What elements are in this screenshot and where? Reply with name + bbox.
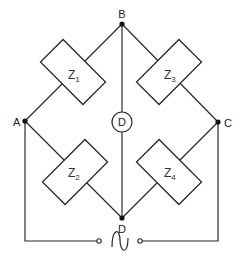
source-terminal-right (138, 239, 142, 243)
detector: D (112, 112, 132, 132)
ac-source (97, 232, 142, 251)
source-terminal-left (97, 239, 101, 243)
node-d (119, 215, 124, 220)
node-b-label: B (118, 8, 125, 20)
node-a (22, 118, 27, 123)
node-a-label: A (13, 116, 21, 128)
bridge-circuit-diagram: Z1 Z3 Z2 Z4 D B A C D (0, 0, 241, 268)
detector-label: D (118, 116, 126, 128)
node-c-label: C (224, 117, 232, 129)
node-c (215, 119, 220, 124)
node-b (119, 21, 124, 26)
